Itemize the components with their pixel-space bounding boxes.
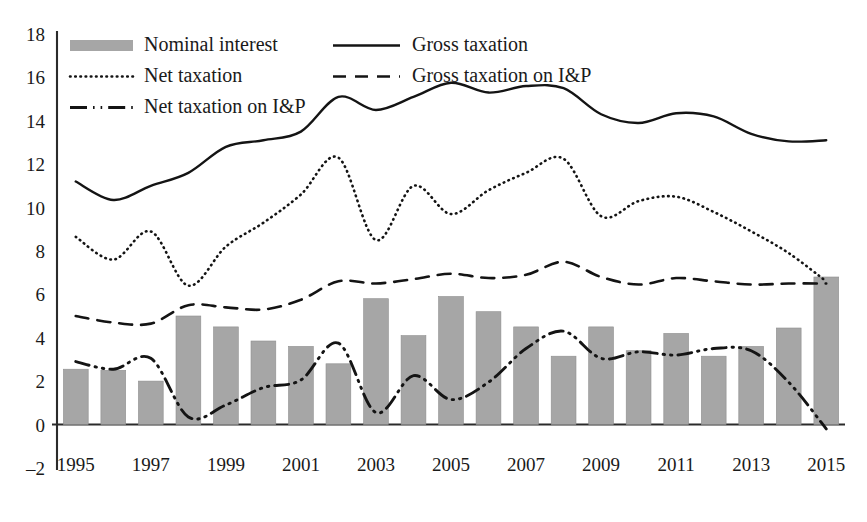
y-tick-label: 6	[36, 284, 46, 305]
bar	[476, 312, 501, 425]
bar	[626, 351, 651, 425]
legend-label-gross-taxation-on-ip: Gross taxation on I&P	[412, 64, 591, 86]
y-tick-label: 18	[26, 24, 45, 45]
y-tick-label: 16	[26, 67, 45, 88]
legend-label-net-taxation-on-ip: Net taxation on I&P	[144, 95, 306, 117]
bar	[589, 327, 614, 425]
legend-label-net-taxation: Net taxation	[144, 64, 242, 86]
bar	[664, 333, 689, 424]
x-tick-label: 2007	[507, 454, 545, 475]
bar	[401, 336, 426, 425]
legend-swatch-nominal-interest	[70, 40, 133, 51]
x-tick-label: 2011	[657, 454, 694, 475]
x-tick-label: 2003	[357, 454, 395, 475]
bar	[176, 316, 201, 425]
bar	[439, 297, 464, 425]
bar	[326, 364, 351, 425]
x-tick-label: 2005	[432, 454, 470, 475]
y-tick-label: –2	[25, 458, 45, 479]
bar	[701, 356, 726, 424]
chart-container: 181614121086420–2 1995199719992001200320…	[0, 0, 867, 522]
x-tick-label: 1995	[57, 454, 95, 475]
legend-label-gross-taxation: Gross taxation	[412, 33, 528, 55]
y-tick-label: 8	[36, 241, 46, 262]
bar	[63, 369, 88, 424]
bar	[251, 341, 276, 425]
chart-canvas: 181614121086420–2 1995199719992001200320…	[0, 0, 867, 522]
bar	[551, 356, 576, 424]
bar	[101, 370, 126, 424]
x-tick-label: 2015	[807, 454, 845, 475]
bar	[364, 299, 389, 425]
x-tick-label: 1997	[132, 454, 170, 475]
bar	[739, 346, 764, 424]
x-tick-label: 2001	[282, 454, 320, 475]
y-tick-label: 10	[26, 198, 45, 219]
x-tick-label: 1999	[207, 454, 245, 475]
x-tick-label: 2013	[732, 454, 770, 475]
y-tick-label: 14	[26, 111, 46, 132]
bar	[814, 277, 839, 425]
y-tick-label: 12	[26, 154, 45, 175]
bar	[776, 328, 801, 425]
bar	[289, 346, 314, 424]
y-tick-label: 0	[36, 415, 46, 436]
x-tick-label: 2009	[582, 454, 620, 475]
y-tick-label: 4	[36, 328, 46, 349]
y-tick-label: 2	[36, 371, 46, 392]
bar	[514, 327, 539, 425]
bar	[138, 381, 163, 424]
legend-label-nominal-interest: Nominal interest	[144, 33, 278, 55]
